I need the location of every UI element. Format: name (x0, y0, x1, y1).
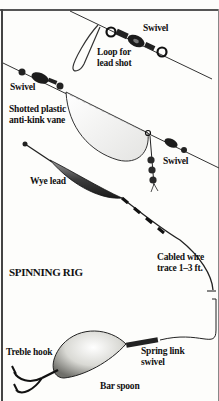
label-wye-lead: Wye lead (30, 176, 66, 187)
top-swivel-assembly (70, 11, 212, 79)
anti-kink-vane (66, 92, 148, 161)
lead-shot-icon (147, 156, 154, 163)
lead-shot-loop (73, 25, 100, 71)
label-swivel-left: Swivel (10, 82, 35, 93)
cabled-wire-trace (122, 198, 213, 290)
spinning-rig-diagram: Swivel Loop for lead shot Swivel Shotted… (0, 0, 219, 401)
diagram-title: SPINNING RIG (9, 267, 83, 278)
bar-spoon (53, 331, 126, 378)
swivel-coil (115, 29, 128, 40)
label-cabled-wire-trace: Cabled wire trace 1–3 ft. (157, 252, 204, 274)
label-loop-for-lead-shot: Loop for lead shot (97, 47, 131, 69)
swivel-ring (57, 83, 64, 90)
lead-shot-icon (149, 176, 156, 183)
label-spring-link-swivel: Spring link swivel (141, 346, 184, 368)
label-swivel-top: Swivel (143, 23, 168, 34)
label-anti-kink-vane: Shotted plastic anti-kink vane (9, 104, 66, 126)
wye-lead-assembly (23, 142, 217, 341)
lead-shot-icon (148, 166, 155, 173)
wire-to-spoon (160, 299, 216, 340)
label-swivel-right: Swivel (163, 156, 188, 167)
label-bar-spoon: Bar spoon (100, 381, 139, 392)
swivel-ring (181, 147, 187, 153)
vane-assembly (3, 63, 219, 192)
treble-hook (12, 366, 42, 381)
label-treble-hook: Treble hook (6, 347, 52, 358)
swivel-ring (19, 69, 26, 76)
